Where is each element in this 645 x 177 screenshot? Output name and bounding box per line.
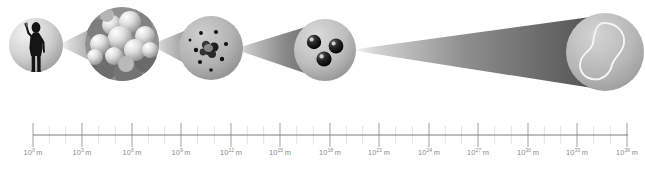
tick-label-exponent: 24 xyxy=(426,147,432,153)
tick-label-base: 10 xyxy=(171,148,180,157)
tick-label-base: 10 xyxy=(467,148,476,157)
tick-label-base: 10 xyxy=(517,148,526,157)
tick-label-exponent: 3 xyxy=(81,147,84,153)
tick-label-exponent: 12 xyxy=(228,147,234,153)
tick-label-exponent: 15 xyxy=(277,147,283,153)
axis-tick-label: 106m xyxy=(122,149,141,156)
tick-label-exponent: 18 xyxy=(327,147,333,153)
tick-label-exponent: 9 xyxy=(180,147,183,153)
tick-label-exponent: 36 xyxy=(624,147,630,153)
scene-human-scale xyxy=(9,18,63,73)
tick-label-unit: m xyxy=(236,148,242,157)
axis-tick-label: 103m xyxy=(72,149,91,156)
axis-tick-label: 1030m xyxy=(517,149,539,156)
scale-imagery-strip xyxy=(0,0,645,105)
axis-tick-label: 1012m xyxy=(220,149,242,156)
molecule-cluster-icon xyxy=(85,7,159,86)
tick-label-exponent: 0 xyxy=(32,147,35,153)
tick-label-base: 10 xyxy=(269,148,278,157)
tick-label-base: 10 xyxy=(566,148,575,157)
axis-tick-label: 109m xyxy=(171,149,190,156)
scene-molecule-cluster-scale xyxy=(85,7,159,86)
tick-label-base: 10 xyxy=(418,148,427,157)
tick-label-base: 10 xyxy=(23,148,32,157)
tick-label-unit: m xyxy=(36,148,42,157)
axis-tick-label: 1015m xyxy=(269,149,291,156)
axis-tick-label: 1036m xyxy=(616,149,638,156)
tick-label-unit: m xyxy=(85,148,91,157)
tick-label-unit: m xyxy=(632,148,638,157)
axis-tick-label: 1033m xyxy=(566,149,588,156)
tick-label-unit: m xyxy=(533,148,539,157)
axis-tick-label: 1018m xyxy=(319,149,341,156)
scene-quark-scale xyxy=(294,19,356,81)
tick-label-exponent: 33 xyxy=(574,147,580,153)
axis-svg xyxy=(0,105,645,177)
tick-label-base: 10 xyxy=(72,148,81,157)
tick-label-unit: m xyxy=(285,148,291,157)
tick-label-exponent: 27 xyxy=(475,147,481,153)
axis-tick-label: 1024m xyxy=(418,149,440,156)
scene-atom-scale xyxy=(179,16,243,80)
tick-label-exponent: 6 xyxy=(131,147,134,153)
tick-label-unit: m xyxy=(384,148,390,157)
tick-label-base: 10 xyxy=(122,148,131,157)
tick-label-base: 10 xyxy=(368,148,377,157)
tick-label-unit: m xyxy=(335,148,341,157)
tick-label-unit: m xyxy=(184,148,190,157)
tick-label-base: 10 xyxy=(616,148,625,157)
imagery-svg xyxy=(0,0,645,105)
tick-label-unit: m xyxy=(483,148,489,157)
tick-label-exponent: 21 xyxy=(376,147,382,153)
tick-label-unit: m xyxy=(434,148,440,157)
axis-tick-label: 100m xyxy=(23,149,42,156)
tick-label-exponent: 30 xyxy=(525,147,531,153)
scene-string-scale xyxy=(566,13,644,91)
tick-label-unit: m xyxy=(135,148,141,157)
tick-label-base: 10 xyxy=(319,148,328,157)
powers-of-ten-scale-diagram: 100m103m106m109m1012m1015m1018m1021m1024… xyxy=(0,0,645,177)
tick-label-base: 10 xyxy=(220,148,229,157)
axis-tick-label: 1021m xyxy=(368,149,390,156)
logarithmic-scale-axis: 100m103m106m109m1012m1015m1018m1021m1024… xyxy=(0,105,645,177)
axis-tick-label: 1027m xyxy=(467,149,489,156)
tick-label-unit: m xyxy=(582,148,588,157)
